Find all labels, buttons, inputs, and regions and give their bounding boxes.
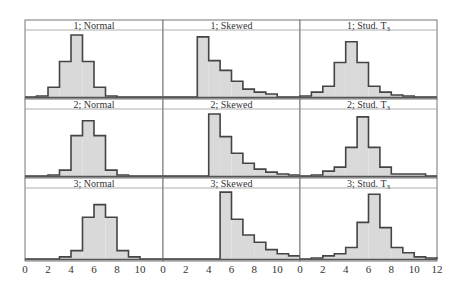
histogram-bar (48, 87, 60, 97)
x-tick-label: 8 (114, 263, 120, 275)
panel-title: 2; Skewed (211, 99, 253, 110)
panel-1-skewed: 1; Skewed (163, 20, 300, 100)
x-tick-label: 4 (343, 263, 349, 275)
panel-title: 1; Normal (74, 20, 115, 31)
panel-title: 3; Normal (74, 178, 115, 189)
histogram-bar (71, 35, 83, 97)
histogram-bar (83, 217, 95, 259)
histogram-bar (83, 62, 95, 97)
histogram-bar (83, 121, 95, 176)
histogram-bar (369, 147, 380, 176)
histogram-bar (357, 63, 368, 97)
histogram-bar (71, 136, 83, 176)
panel-2-normal: 2; Normal (25, 99, 163, 179)
histogram-bar (209, 61, 220, 97)
panel-3-skewed: 3; Skewed (163, 178, 300, 262)
histogram-bar (94, 136, 106, 176)
histogram-bar (60, 170, 72, 176)
panel-2-skewed: 2; Skewed (163, 99, 300, 179)
histogram-bar (197, 37, 208, 97)
x-tick-label: 8 (252, 263, 258, 275)
x-tick-label: 0 (160, 263, 166, 275)
panel-2-stud-t3: 2; Stud. T3 (300, 99, 437, 179)
histogram-bar (232, 81, 243, 97)
panel-title: 1; Skewed (211, 20, 253, 31)
x-axis: 02468100246810024681012 (22, 263, 442, 275)
histogram-bar (403, 253, 414, 259)
x-tick-label: 0 (297, 263, 303, 275)
histogram-bar (254, 242, 265, 259)
histogram-bar (369, 86, 380, 97)
x-tick-label: 0 (22, 263, 28, 275)
histogram-bar (369, 194, 380, 259)
histogram-bar (243, 163, 254, 176)
histogram-bar (106, 217, 118, 259)
histogram-bar (254, 169, 265, 176)
histogram-bar (334, 167, 345, 176)
histogram-bar (220, 137, 231, 176)
x-tick-label: 10 (135, 263, 147, 275)
histogram-bar (323, 86, 334, 97)
histogram-bar (60, 62, 72, 97)
histogram-bar (357, 222, 368, 259)
histogram-bar (346, 248, 357, 260)
histogram-bar (94, 205, 106, 259)
x-tick-label: 10 (409, 263, 421, 275)
histogram-bar (357, 117, 368, 176)
histogram-bar (346, 147, 357, 176)
panel-1-normal: 1; Normal (25, 20, 163, 100)
x-tick-label: 10 (272, 263, 284, 275)
histogram-bar (94, 87, 106, 97)
histogram-bar (232, 153, 243, 176)
histogram-bar (220, 70, 231, 97)
panel-title: 2; Normal (74, 99, 115, 110)
x-tick-label: 6 (229, 263, 235, 275)
histogram-bar (71, 251, 83, 259)
x-tick-label: 2 (320, 263, 326, 275)
panel-3-normal: 3; Normal (25, 178, 163, 262)
histogram-bar (346, 42, 357, 97)
histogram-bar (380, 228, 391, 259)
histogram-bar (106, 170, 118, 176)
x-tick-label: 4 (68, 263, 74, 275)
x-tick-label: 2 (183, 263, 189, 275)
histogram-bar (220, 192, 231, 259)
x-tick-label: 12 (432, 263, 443, 275)
panel-1-stud-t3: 1; Stud. T3 (300, 20, 437, 100)
histogram-bar (380, 167, 391, 176)
histogram-bar (391, 248, 402, 260)
histogram-bar (334, 63, 345, 97)
x-tick-label: 8 (389, 263, 395, 275)
x-tick-label: 6 (366, 263, 372, 275)
histogram-grid: 1; Normal1; Skewed1; Stud. T32; Normal2;… (0, 0, 461, 286)
x-tick-label: 4 (206, 263, 212, 275)
panel-title: 3; Skewed (211, 178, 253, 189)
histogram-bar (266, 250, 277, 259)
histogram-bar (243, 235, 254, 259)
histogram-bar (117, 251, 129, 259)
panel-3-stud-t3: 3; Stud. T3 (300, 178, 437, 262)
histogram-bar (209, 114, 220, 176)
histogram-bar (232, 219, 243, 259)
x-tick-label: 2 (45, 263, 51, 275)
x-tick-label: 6 (91, 263, 97, 275)
histogram-bar (243, 89, 254, 97)
